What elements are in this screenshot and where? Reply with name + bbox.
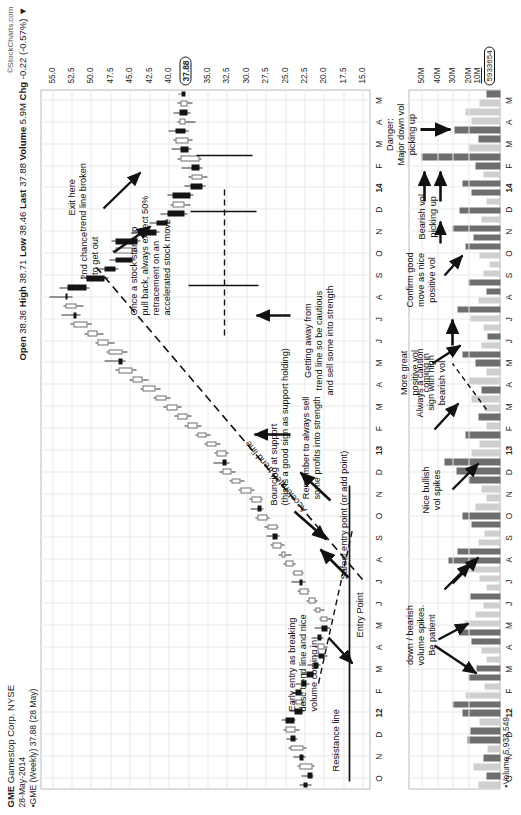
candlestick (297, 588, 309, 594)
price-gridline-v (40, 733, 370, 734)
x-axis-label-price: J (373, 601, 383, 605)
volume-bar (481, 485, 500, 491)
candlestick (168, 128, 188, 134)
candlestick (255, 514, 269, 520)
candlestick (283, 561, 295, 567)
x-axis-label-price: F (373, 688, 383, 693)
volume-bar (489, 261, 500, 267)
volume-bar (486, 772, 500, 778)
candle-wick (178, 93, 180, 94)
x-axis-label-price: 14 (373, 183, 383, 192)
x-axis-label-price: M (373, 359, 383, 366)
candlestick (171, 146, 190, 152)
price-gridline-v (40, 711, 370, 712)
candlestick (299, 782, 311, 788)
volume-bar (484, 530, 500, 536)
x-axis-label-price: M (373, 403, 383, 410)
candlestick (61, 312, 80, 318)
x-axis-label-price: J (373, 579, 383, 583)
volume-bar (483, 754, 500, 760)
candle-body (180, 155, 199, 161)
candle-body (240, 487, 251, 493)
volume-bar (456, 467, 500, 473)
candle-body (293, 570, 302, 576)
candlestick (188, 174, 207, 180)
volume-bar (481, 386, 500, 392)
note-remember-to-sell: Remember to always sell some profits int… (300, 396, 322, 499)
x-axis-label-volume: D (503, 469, 513, 475)
price-gridline-v (40, 121, 370, 122)
candle-body (285, 726, 295, 732)
x-axis-label-volume: D (503, 206, 513, 212)
volume-bar (475, 162, 500, 168)
price-tick-label: 40.0 (164, 67, 173, 83)
volume-tick-label: 50M (416, 67, 425, 83)
candle-body (303, 782, 307, 788)
candlestick (292, 570, 304, 576)
candlestick (213, 459, 229, 465)
candlestick (163, 404, 181, 410)
volume-bar (452, 701, 500, 707)
price-gridline (90, 89, 91, 789)
volume-gridline (452, 89, 453, 789)
candle-body (315, 607, 320, 613)
x-axis-label-price: A (373, 382, 383, 388)
candlestick (250, 505, 262, 511)
candlestick (173, 109, 190, 115)
volume-bar (479, 252, 500, 258)
candlestick (178, 91, 180, 97)
volume-bar (470, 315, 500, 321)
candle-body (285, 717, 294, 723)
candlestick (291, 579, 305, 585)
candlestick (278, 551, 290, 557)
price-gridline (362, 89, 363, 789)
volume-bar (479, 718, 500, 724)
price-tick-label: 27.5 (261, 67, 270, 83)
candle-body (65, 303, 77, 309)
price-tick-label: 22.5 (300, 67, 309, 83)
price-gridline-v (40, 515, 370, 516)
price-tick-label: 47.5 (105, 67, 114, 83)
open-label: Open (16, 336, 27, 360)
candlestick (293, 754, 305, 760)
volume-bar (484, 404, 500, 410)
volume-bar (486, 288, 500, 294)
last-label: Last (16, 189, 27, 209)
price-gridline (343, 89, 344, 789)
candle-body (175, 137, 187, 143)
candle-body (222, 468, 231, 474)
candle-body (281, 551, 286, 557)
candle-body (73, 312, 77, 318)
candlestick (174, 413, 191, 419)
volume-bar (459, 207, 500, 213)
volume-bar (484, 683, 500, 689)
candlestick (204, 441, 220, 447)
volume-bar (471, 638, 500, 644)
x-axis-label-volume: F (503, 426, 513, 431)
volume-bar (475, 503, 500, 509)
candlestick (229, 478, 245, 484)
volume-tick-label: 20M (464, 67, 473, 83)
price-gridline-v (40, 690, 370, 691)
volume-bar (486, 368, 500, 374)
price-gridline-v (40, 165, 370, 166)
volume-bar (487, 333, 500, 339)
x-axis-label-volume: O (503, 512, 513, 519)
low-value: 38.46 (16, 211, 27, 235)
volume-gridline (468, 89, 469, 789)
x-axis-label-volume: N (503, 228, 513, 234)
candle-body (299, 754, 303, 760)
candle-body (299, 588, 308, 594)
volume-bar (478, 135, 500, 141)
candlestick (301, 772, 313, 778)
candle-body (187, 422, 197, 428)
volume-bar (467, 736, 500, 742)
candle-body (307, 772, 312, 778)
candlestick (306, 597, 318, 603)
price-gridline (149, 89, 150, 789)
x-axis-label-volume: N (503, 491, 513, 497)
open-value: 38.36 (16, 309, 27, 333)
volume-label: Volume (16, 126, 27, 160)
candlestick (319, 616, 331, 622)
price-gridline-v (40, 99, 370, 100)
